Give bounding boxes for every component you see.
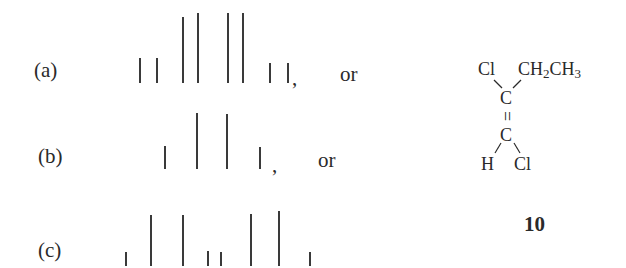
compound-number: 10 — [524, 212, 545, 237]
